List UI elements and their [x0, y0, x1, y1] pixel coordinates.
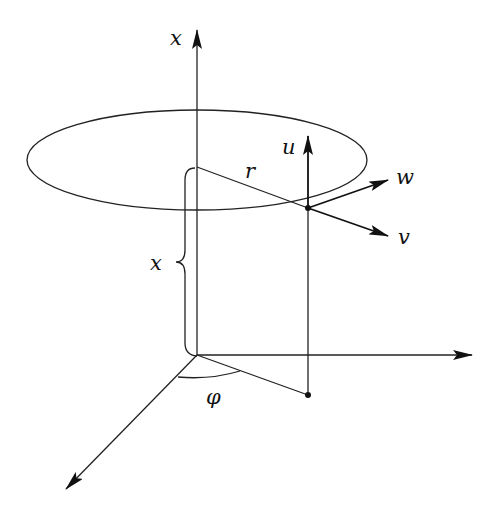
w-label: w	[396, 165, 414, 189]
projection-point	[305, 392, 311, 398]
v-label: v	[398, 225, 410, 249]
cylindrical-coordinates-diagram: x r u w v x φ	[0, 0, 494, 510]
v-arrow	[308, 208, 388, 236]
vertical-axis-label: x	[170, 26, 182, 50]
height-brace	[176, 168, 197, 356]
angle-label: φ	[206, 385, 221, 409]
point-on-circle	[305, 205, 311, 211]
height-label: x	[150, 251, 162, 275]
radius-label: r	[245, 159, 257, 183]
diagonal-axis	[66, 355, 197, 489]
u-label: u	[282, 135, 296, 159]
angle-arc	[178, 371, 240, 378]
